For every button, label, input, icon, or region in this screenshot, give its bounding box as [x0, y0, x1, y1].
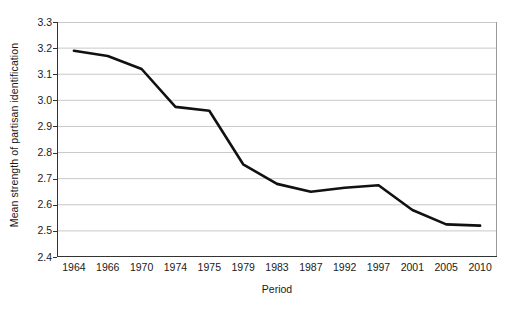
y-tick-label: 2.5 [22, 225, 52, 236]
y-tick-label: 2.7 [22, 173, 52, 184]
y-tick-label: 2.6 [22, 199, 52, 210]
y-axis-title: Mean strength of partisan identification [8, 6, 22, 264]
line-chart-svg [57, 22, 497, 257]
y-tick-label: 3.3 [22, 17, 52, 28]
gridlines [57, 48, 497, 231]
y-tick-label: 3.1 [22, 69, 52, 80]
y-tick-label: 2.4 [22, 252, 52, 263]
y-tick-label: 2.8 [22, 147, 52, 158]
chart-figure: Mean strength of partisan identification… [0, 0, 510, 310]
plot-frame [57, 22, 497, 257]
y-tick-label: 3.0 [22, 95, 52, 106]
y-tick-mark [53, 257, 57, 258]
plot-area [57, 22, 497, 257]
x-tick-label: 2010 [457, 261, 503, 273]
y-tick-label: 3.2 [22, 43, 52, 54]
y-tick-label: 2.9 [22, 121, 52, 132]
x-axis-title: Period [57, 283, 497, 295]
data-series-line [74, 51, 480, 226]
